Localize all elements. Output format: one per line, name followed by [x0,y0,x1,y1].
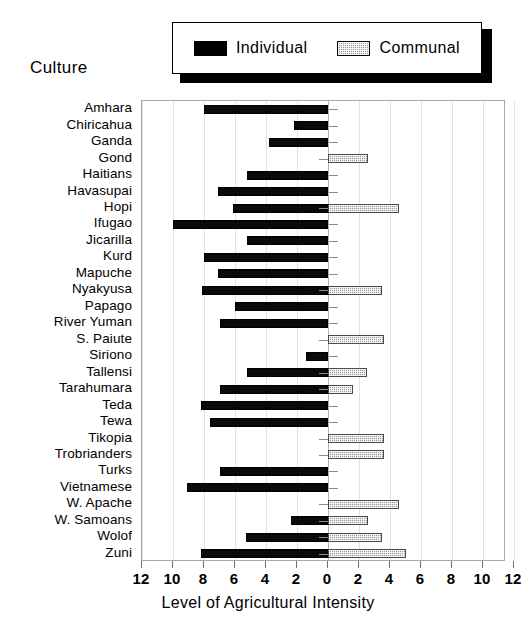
bar-row [142,282,504,298]
bar-individual [202,286,328,295]
bar-row [142,315,504,331]
category-label: Zuni [105,546,132,560]
bar-row [142,364,504,380]
x-axis-tick-label: 2 [354,570,363,587]
x-axis-tick [420,561,421,568]
bar-row [142,134,504,150]
x-axis-title-text: Level of Agricultural Intensity [156,594,375,611]
bar-communal [328,500,399,509]
row-tick-stub [329,471,338,472]
x-axis-tick-label: 12 [132,570,149,587]
row-tick-stub [329,224,338,225]
bar-row [142,167,504,183]
category-label: Tallensi [86,365,132,379]
row-tick-stub [319,389,328,390]
x-axis-tick-label: 2 [292,570,301,587]
bar-row [142,430,504,446]
bar-individual [235,302,328,311]
x-axis-tick-label: 0 [323,570,332,587]
bar-row [142,480,504,496]
category-label: River Yuman [54,315,132,329]
x-axis-tick [172,561,173,568]
row-tick-stub [329,257,338,258]
bar-row [142,233,504,249]
x-axis-tick [451,561,452,568]
bar-row [142,216,504,232]
bar-row [142,381,504,397]
bar-row [142,117,504,133]
bar-row [142,249,504,265]
category-label-list: AmharaChiricahuaGandaGondHaitiansHavasup… [0,100,136,561]
bar-individual [220,385,329,394]
category-label: Nyakyusa [72,282,132,296]
category-label: Tewa [100,414,132,428]
bar-individual [269,138,328,147]
row-tick-stub [329,488,338,489]
row-tick-stub [319,159,328,160]
x-axis-tick [141,561,142,568]
category-label: Kurd [103,249,132,263]
bar-communal [328,533,382,542]
row-tick-stub [329,356,338,357]
bar-row [142,414,504,430]
bar-individual [210,418,328,427]
row-tick-stub [329,323,338,324]
bar-row [142,200,504,216]
bar-individual [204,105,328,114]
x-axis-tick [327,561,328,568]
row-tick-stub [319,521,328,522]
category-label: W. Apache [67,496,132,510]
bar-communal [328,385,353,394]
category-label: Wolof [97,529,132,543]
x-axis-tick [234,561,235,568]
x-axis-tick-labels: 12108642024681012 [0,570,530,590]
bar-individual [218,187,328,196]
category-label: W. Samoans [54,513,132,527]
bar-individual [247,236,328,245]
bar-individual [247,368,328,377]
bar-communal [328,154,368,163]
category-label: Siriono [89,348,132,362]
bar-individual [246,533,328,542]
x-axis-tick [482,561,483,568]
gridline [514,101,515,560]
bar-individual [220,467,329,476]
bar-individual [204,253,328,262]
legend-entry-individual: Individual [194,39,308,57]
x-axis-tick [389,561,390,568]
x-axis-tick-label: 8 [447,570,456,587]
x-axis-tick-label: 8 [199,570,208,587]
legend-entry-communal: Communal [337,39,460,57]
row-tick-stub [329,142,338,143]
row-tick-stub [329,406,338,407]
row-tick-stub [319,340,328,341]
category-label: Tarahumara [59,381,132,395]
x-axis-tick-label: 10 [473,570,490,587]
bar-rows [142,101,504,560]
bar-communal [328,450,384,459]
bar-individual [306,352,328,361]
category-label: Vietnamese [60,480,132,494]
category-label: Gond [99,151,132,165]
category-label: Papago [85,299,132,313]
category-label: Turks [98,463,132,477]
bar-row [142,546,504,562]
bar-communal [328,434,384,443]
row-tick-stub [319,439,328,440]
bar-communal [328,516,368,525]
x-axis-tick [358,561,359,568]
bar-row [142,150,504,166]
bar-communal [328,335,384,344]
row-tick-stub [329,192,338,193]
category-label: Ifugao [94,216,132,230]
x-axis-tick-label: 10 [163,570,180,587]
bar-row [142,513,504,529]
category-label: Teda [102,398,132,412]
row-tick-stub [329,109,338,110]
category-label: Chiricahua [66,118,132,132]
legend-swatch-individual-icon [194,41,227,56]
x-axis-tick-label: 4 [385,570,394,587]
row-tick-stub [329,274,338,275]
bar-individual [220,319,329,328]
bar-row [142,397,504,413]
